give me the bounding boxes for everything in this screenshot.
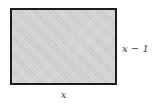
rectangle-diagram: x − 1 x bbox=[0, 0, 157, 108]
width-label: x bbox=[10, 89, 117, 101]
height-label: x − 1 bbox=[122, 43, 157, 55]
rectangle-shape bbox=[10, 8, 117, 85]
